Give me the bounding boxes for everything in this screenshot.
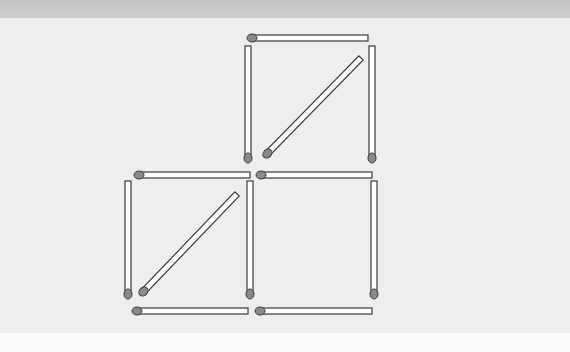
matchstick-lower-left-vertical [124, 181, 132, 299]
match-head-icon [256, 171, 266, 179]
matchstick-middle-horizontal-left [134, 171, 250, 179]
matchstick-upper-left-vertical [244, 46, 252, 163]
match-head-icon [247, 34, 257, 42]
matchstick-middle-horizontal-right [256, 171, 372, 179]
matchstick-top-horizontal [247, 34, 368, 42]
match-head-icon [246, 289, 254, 299]
matchstick-middle-vertical [246, 181, 254, 299]
match-head-icon [370, 289, 378, 299]
matchstick-upper-diagonal [261, 55, 364, 160]
matchstick-lower-diagonal [137, 191, 240, 298]
matchstick-lower-right-vertical [370, 181, 378, 299]
match-head-icon [124, 289, 132, 299]
matchstick-puzzle [0, 0, 570, 352]
match-head-icon [134, 171, 144, 179]
matchstick-bottom-horizontal-left [132, 307, 248, 315]
match-head-icon [132, 307, 142, 315]
match-head-icon [368, 153, 376, 163]
match-head-icon [244, 153, 252, 163]
match-head-icon [255, 307, 265, 315]
matchstick-bottom-horizontal-right [255, 307, 372, 315]
matchstick-upper-right-vertical [368, 46, 376, 163]
